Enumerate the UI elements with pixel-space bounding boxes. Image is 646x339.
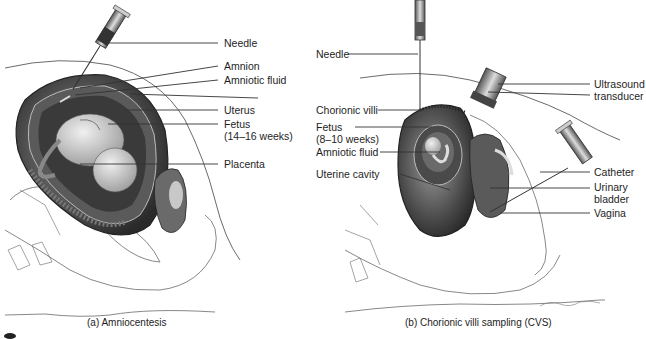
label-bladder: bladder — [594, 193, 629, 205]
label-placenta: Placenta — [224, 158, 265, 170]
label-chorionic-villi: Chorionic villi — [316, 104, 378, 116]
figure-amniocentesis-cvs: Needle Amnion Amniotic fluid Uterus Fetu… — [0, 0, 646, 339]
label-uterus: Uterus — [224, 104, 255, 116]
label-urinary: Urinary — [594, 181, 628, 193]
label-transducer: transducer — [594, 90, 644, 102]
label-uterine-cavity: Uterine cavity — [316, 168, 380, 180]
figure-marker-icon — [4, 333, 16, 339]
caption-cvs: (b) Chorionic villi sampling (CVS) — [405, 317, 552, 328]
label-ultrasound: Ultrasound — [594, 78, 645, 90]
panel-a-illustration — [5, 5, 240, 316]
label-amniotic-fluid-a: Amniotic fluid — [224, 74, 286, 86]
label-fetus-age-b: (8–10 weeks) — [316, 133, 379, 145]
label-catheter: Catheter — [594, 166, 634, 178]
caption-amniocentesis: (a) Amniocentesis — [87, 317, 166, 328]
label-fetus-b: Fetus — [316, 121, 342, 133]
label-needle-b: Needle — [316, 48, 349, 60]
panel-b-illustration — [345, 0, 620, 312]
label-needle-a: Needle — [224, 37, 257, 49]
label-amniotic-fluid-b: Amniotic fluid — [316, 146, 378, 158]
label-amnion: Amnion — [224, 60, 260, 72]
label-fetus-a: Fetus — [224, 118, 250, 130]
label-fetus-age-a: (14–16 weeks) — [224, 130, 293, 142]
label-vagina: Vagina — [594, 207, 626, 219]
